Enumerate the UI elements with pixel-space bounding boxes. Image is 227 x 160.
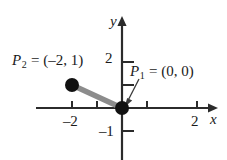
point-label-p2: P2 = (–2, 1) [12,53,83,70]
y-tick-label-2: 2 [105,51,112,66]
coordinate-plane-figure: P2 = (–2, 1) P1 = (0, 0) y x –2 2 2 –1 [0,0,227,160]
point-marker-p2 [65,78,79,92]
y-axis-label: y [110,14,117,29]
point-label-p1: P1 = (0, 0) [130,64,194,81]
point-label-p1-coords: (0, 0) [161,63,194,79]
point-label-p1-base: P [130,63,139,79]
y-axis [117,16,126,160]
point-label-p2-subscript: 2 [22,59,27,70]
point-label-p2-equals: = [27,52,43,68]
y-tick-label-neg1: –1 [99,124,114,139]
point-label-p2-base: P [12,52,21,68]
x-axis-label: x [210,112,217,127]
x-tick-label-neg2: –2 [63,114,78,129]
x-tick-label-2: 2 [191,114,198,129]
point-label-p1-subscript: 1 [140,70,145,81]
point-label-p2-coords: (–2, 1) [43,52,83,68]
point-label-p1-equals: = [145,63,161,79]
point-marker-p1 [115,101,129,115]
